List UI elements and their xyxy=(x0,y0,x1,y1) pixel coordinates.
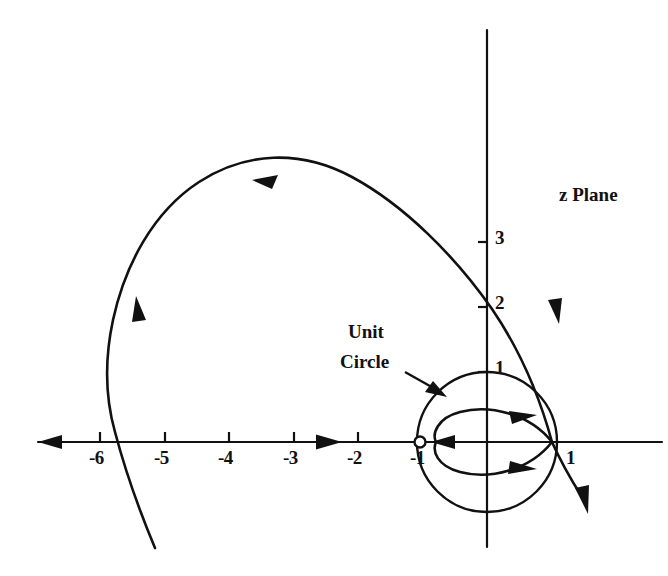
outer-locus-left-arrow-icon xyxy=(132,296,146,322)
axes-group xyxy=(38,30,662,547)
outer-locus-top-arrow-icon xyxy=(252,175,278,189)
z-plane-figure: -6 -5 -4 -3 -2 -1 1 1 2 3 z Plane Unit C… xyxy=(0,0,668,576)
inner-loop-lower-arrow-icon xyxy=(508,461,537,474)
unit-circle-callout-group xyxy=(405,372,447,397)
x-tick-label-minus6: -6 xyxy=(89,448,104,468)
z-plane-label: z Plane xyxy=(559,185,618,205)
x-tick-label-minus5: -5 xyxy=(154,448,169,468)
unit-circle-label-line2: Circle xyxy=(340,352,389,372)
y-tick-label-2: 2 xyxy=(495,293,504,313)
outer-locus-right-arrow-icon xyxy=(548,298,562,324)
x-axis-left-arrow-icon xyxy=(38,435,62,449)
outer-locus-curve xyxy=(107,158,552,548)
x-tick-label-minus4: -4 xyxy=(218,448,233,468)
plot-canvas xyxy=(0,0,668,576)
x-tick-label-1: 1 xyxy=(566,448,575,468)
unit-circle-label-line1: Unit xyxy=(348,322,384,342)
y-tick-label-3: 3 xyxy=(495,228,504,248)
y-tick-label-1: 1 xyxy=(495,358,504,378)
x-tick-label-minus3: -3 xyxy=(283,448,298,468)
inner-loop-upper-arrow-icon xyxy=(509,411,537,424)
x-tick-label-minus1: -1 xyxy=(410,448,425,468)
exit-branch-arrow-icon xyxy=(575,485,589,514)
critical-point-marker xyxy=(415,437,426,448)
x-tick-label-minus2: -2 xyxy=(347,448,362,468)
